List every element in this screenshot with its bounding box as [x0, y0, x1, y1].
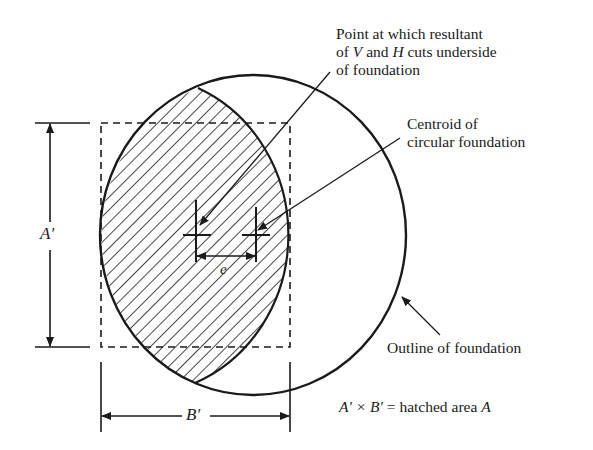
- resultant-label-line2: of V and H cuts underside: [336, 43, 497, 61]
- resultant-label-line1: Point at which resultant: [336, 25, 497, 43]
- resultant-point-label: Point at which resultant of V and H cuts…: [336, 25, 497, 79]
- resultant-label-line3: of foundation: [336, 61, 497, 79]
- outline-label: Outline of foundation: [387, 339, 521, 357]
- equation-rhs: A: [481, 398, 490, 415]
- foundation-diagram: [0, 0, 593, 450]
- equation-lhs: A′ × B′: [339, 398, 383, 415]
- equation-text: = hatched area: [383, 398, 481, 415]
- b-prime-label: B′: [184, 405, 202, 425]
- a-prime-label: A′: [38, 224, 56, 244]
- leader-outline: [402, 297, 440, 335]
- centroid-label-line2: circular foundation: [407, 133, 525, 151]
- eccentricity-label: e: [218, 261, 229, 278]
- area-equation: A′ × B′ = hatched area A: [339, 398, 491, 416]
- centroid-label: Centroid of circular foundation: [407, 115, 525, 151]
- centroid-label-line1: Centroid of: [407, 115, 525, 133]
